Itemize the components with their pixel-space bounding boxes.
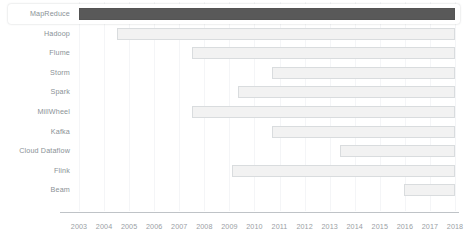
timeline-bar-spark[interactable] [238, 86, 455, 98]
timeline-bar-millwheel[interactable] [192, 106, 455, 118]
category-label-kafka: Kafka [0, 122, 70, 142]
category-label-hadoop: Hadoop [0, 24, 70, 44]
bar-row[interactable]: Cloud Dataflow [0, 141, 470, 161]
timeline-bar-cloud-dataflow[interactable] [340, 145, 455, 157]
category-label-flume: Flume [0, 43, 70, 63]
bar-row[interactable]: Beam [0, 180, 470, 200]
bar-row[interactable]: Flume [0, 43, 470, 63]
plot-area: MapReduceHadoopFlumeStormSparkMillWheelK… [0, 0, 470, 213]
category-label-beam: Beam [0, 180, 70, 200]
bar-row[interactable]: Storm [0, 63, 470, 83]
timeline-bar-storm[interactable] [272, 67, 455, 79]
category-label-storm: Storm [0, 63, 70, 83]
category-label-flink: Flink [0, 161, 70, 181]
bar-row[interactable]: Hadoop [0, 24, 470, 44]
bar-row[interactable]: Spark [0, 82, 470, 102]
gantt-timeline-chart: MapReduceHadoopFlumeStormSparkMillWheelK… [0, 0, 470, 241]
timeline-bar-flume[interactable] [192, 47, 455, 59]
timeline-bar-hadoop[interactable] [117, 28, 455, 40]
bar-row[interactable]: Kafka [0, 122, 470, 142]
category-label-cloud-dataflow: Cloud Dataflow [0, 141, 70, 161]
bar-row[interactable]: MillWheel [0, 102, 470, 122]
timeline-bar-kafka[interactable] [272, 126, 455, 138]
x-tick-label-2018: 2018 [440, 222, 470, 231]
bar-row[interactable]: MapReduce [0, 4, 470, 24]
timeline-bar-flink[interactable] [232, 165, 455, 177]
category-label-spark: Spark [0, 82, 70, 102]
x-axis-line [60, 212, 459, 213]
category-label-millwheel: MillWheel [0, 102, 70, 122]
bar-row[interactable]: Flink [0, 161, 470, 181]
category-label-mapreduce: MapReduce [0, 4, 70, 24]
timeline-bar-mapreduce[interactable] [79, 8, 455, 20]
timeline-bar-beam[interactable] [404, 184, 455, 196]
